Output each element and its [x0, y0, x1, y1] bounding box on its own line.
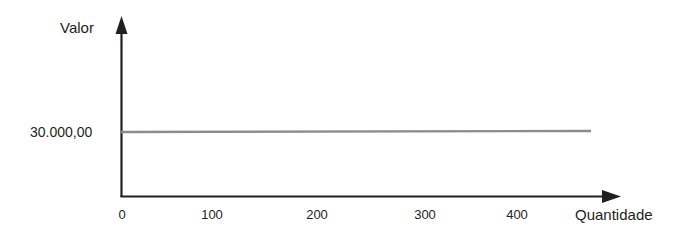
x-axis-title: Quantidade — [575, 207, 653, 222]
x-tick-label-200: 200 — [306, 208, 328, 221]
y-tick-label: 30.000,00 — [30, 125, 92, 139]
chart-figure: Valor Quantidade 30.000,00 0 100 200 300… — [0, 0, 694, 245]
arrow-up-icon — [116, 16, 128, 34]
y-axis-title: Valor — [60, 20, 94, 35]
x-tick-label-400: 400 — [506, 208, 528, 221]
x-tick-label-300: 300 — [414, 208, 436, 221]
arrow-right-icon — [602, 190, 621, 203]
series-line-custo-fixo — [121, 131, 591, 132]
x-tick-label-0: 0 — [118, 208, 125, 221]
x-tick-label-100: 100 — [201, 208, 223, 221]
